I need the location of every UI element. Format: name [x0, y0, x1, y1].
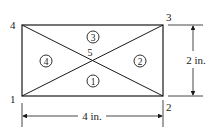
element-label-3: 3: [87, 31, 99, 43]
node-label-5: 5: [88, 47, 93, 58]
element-label-1: 1: [87, 75, 99, 87]
height-label: 2 in.: [186, 54, 206, 66]
node-label-2: 2: [166, 101, 172, 113]
width-label: 4 in.: [82, 110, 102, 122]
node-label-1: 1: [10, 93, 16, 105]
svg-text:4: 4: [44, 57, 49, 67]
svg-text:3: 3: [91, 33, 96, 43]
element-label-2: 2: [134, 55, 146, 67]
svg-text:1: 1: [91, 77, 96, 87]
svg-text:2: 2: [138, 57, 143, 67]
plate-diagram: 4 1 3 2 5 3 4 2 1 4 in. 2 in.: [0, 0, 215, 133]
node-label-4: 4: [10, 19, 16, 31]
node-label-3: 3: [166, 11, 172, 23]
element-label-4: 4: [40, 55, 52, 67]
